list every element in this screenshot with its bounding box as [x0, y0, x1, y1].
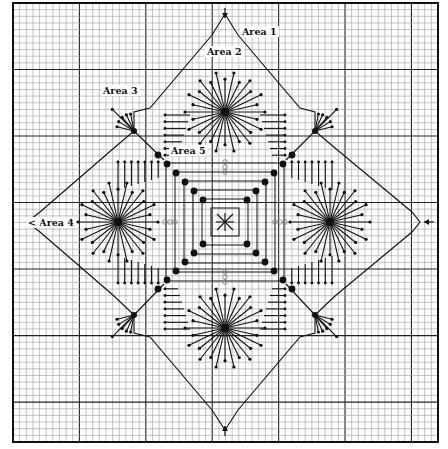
label-area4: < Area 4 — [26, 217, 76, 228]
label-area1: Area 1 — [240, 26, 279, 37]
label-area5: Area 5 — [169, 145, 208, 156]
arrow-left-icon: < — [28, 217, 36, 228]
label-area4-text: Area 4 — [39, 217, 74, 228]
label-area3: Area 3 — [101, 85, 140, 96]
label-area2: Area 2 — [205, 46, 244, 57]
